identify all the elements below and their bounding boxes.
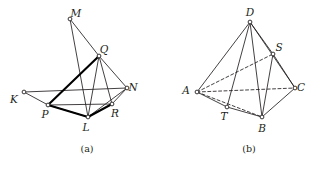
figure-hit-layer <box>0 0 320 171</box>
figure-board: MQNKPRL (a) DSACTB (b) <box>0 0 320 171</box>
